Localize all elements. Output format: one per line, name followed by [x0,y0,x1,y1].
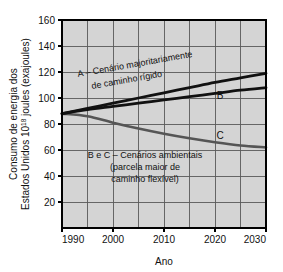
x-tick-label: 2000 [102,234,125,245]
x-tick-label: 2020 [204,234,227,245]
y-axis-title-prefix: Estados Unidos 10 [20,126,31,210]
annotation-bc-line-1: B e C – Cenários ambientais [88,150,203,160]
chart-figure: 20406080100120140160 1990200020102020203… [0,0,283,272]
x-tick-label: 2010 [153,234,176,245]
series-inline-label-c: C [216,130,223,141]
x-axis-title: Ano [155,256,173,267]
series-inline-label-b: B [217,90,224,101]
y-tick-label: 80 [44,119,56,130]
y-tick-label: 100 [38,93,55,104]
energy-scenarios-line-chart: 20406080100120140160 1990200020102020203… [0,0,283,272]
y-tick-label: 40 [44,171,56,182]
y-tick-label: 120 [38,67,55,78]
y-axis-title-suffix: joules (exajoules) [20,38,31,119]
y-tick-label: 20 [44,197,56,208]
y-tick-label: 60 [44,145,56,156]
y-tick-label: 140 [38,41,55,52]
x-tick-label: 1990 [62,234,85,245]
y-tick-label: 160 [38,15,55,26]
annotation-bc-line-3: caminho flexível) [111,174,179,184]
annotation-bc-line-2: (parcela maior de [110,162,180,172]
x-tick-label: 2030 [244,234,267,245]
y-axis-title-line-1: Consumo de energia dos [8,68,19,180]
